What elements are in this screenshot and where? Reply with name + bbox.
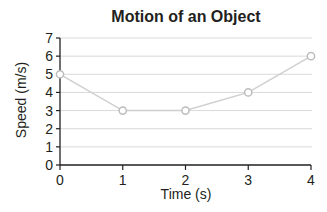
y-tick-label: 0: [45, 157, 53, 173]
data-point: [307, 53, 314, 60]
gridlines: [60, 38, 312, 147]
y-tick-label: 2: [45, 121, 53, 137]
y-tick-label: 7: [45, 30, 53, 46]
y-tick-label: 4: [45, 84, 53, 100]
tick-labels: 0123456701234: [45, 30, 315, 188]
data-markers: [56, 53, 314, 115]
y-axis-label: Speed (m/s): [13, 45, 29, 155]
speed-line: [60, 56, 311, 110]
data-point: [245, 89, 252, 96]
axes: [56, 38, 311, 170]
data-point: [119, 107, 126, 114]
line-chart: 0123456701234: [0, 0, 327, 212]
y-tick-label: 5: [45, 66, 53, 82]
y-tick-label: 1: [45, 139, 53, 155]
data-point: [56, 71, 63, 78]
x-axis-label: Time (s): [60, 186, 312, 202]
y-tick-label: 6: [45, 48, 53, 64]
y-tick-label: 3: [45, 103, 53, 119]
chart-title: Motion of an Object: [60, 8, 312, 26]
data-point: [182, 107, 189, 114]
